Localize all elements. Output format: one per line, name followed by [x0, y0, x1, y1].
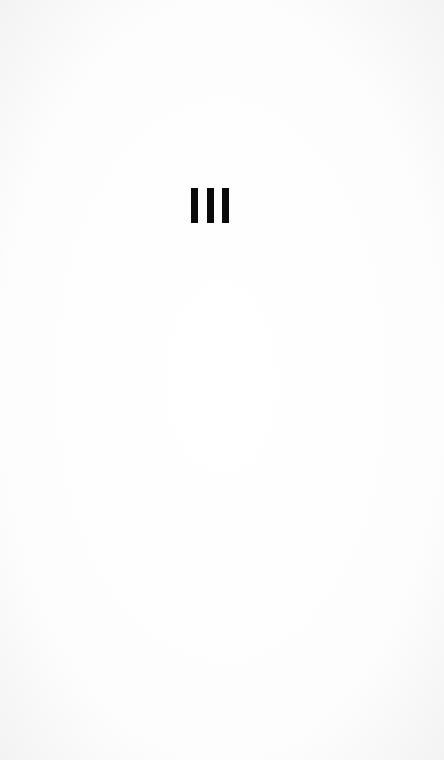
- three-bars-logo-icon: III: [191, 188, 229, 223]
- splash-screen: III: [0, 0, 444, 760]
- logo-bar-3: [222, 188, 229, 223]
- logo-bar-1: [191, 188, 198, 223]
- logo-bar-2: [207, 188, 214, 223]
